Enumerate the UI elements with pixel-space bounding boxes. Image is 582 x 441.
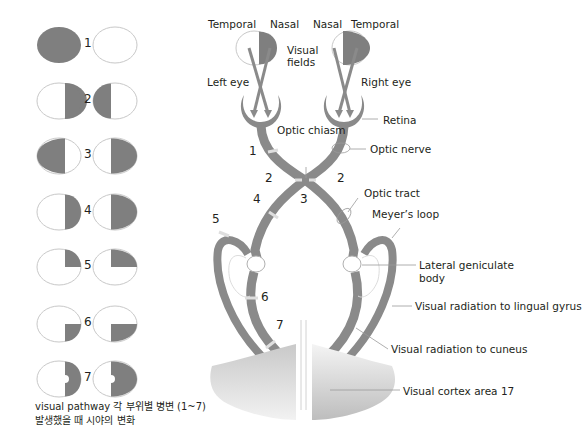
caption-line-2: 발생했을 때 시야의 변화 — [35, 414, 206, 428]
field-row-number-7: 7 — [84, 371, 92, 384]
lesion-number-4: 4 — [253, 193, 261, 206]
field-row-number-4: 4 — [84, 204, 92, 217]
label-visual-fields-1: Visual — [287, 44, 318, 56]
lesion-number-2-left: 2 — [265, 172, 273, 185]
lesion-number-5: 5 — [212, 213, 220, 226]
caption-line-1: visual pathway 각 부위별 병변 (1~7) — [35, 400, 206, 414]
lesion-number-2-right: 2 — [337, 172, 345, 185]
lesion-number-7: 7 — [276, 319, 284, 332]
label-meyers-loop: Meyer’s loop — [372, 208, 439, 220]
label-radiation-lingual: Visual radiation to lingual gyrus — [415, 300, 582, 312]
label-left-eye: Left eye — [207, 76, 249, 88]
label-radiation-cuneus: Visual radiation to cuneus — [391, 343, 527, 355]
field-row-number-3: 3 — [84, 148, 92, 161]
right-eye-field-normal — [93, 27, 137, 63]
field-row-number-1: 1 — [84, 37, 92, 50]
left-visual-cortex — [210, 344, 296, 420]
lesion-number-3: 3 — [300, 193, 308, 206]
midline — [301, 320, 306, 410]
label-left-nasal: Nasal — [270, 18, 299, 30]
label-right-eye: Right eye — [361, 76, 411, 88]
label-lgb-1: Lateral geniculate — [419, 259, 514, 271]
field-row-number-2: 2 — [84, 93, 92, 106]
label-left-temporal: Temporal — [208, 18, 256, 30]
figure-caption: visual pathway 각 부위별 병변 (1~7) 발생했을 때 시야의… — [35, 400, 206, 428]
left-lgb — [247, 256, 265, 272]
label-visual-cortex: Visual cortex area 17 — [403, 385, 514, 397]
label-retina: Retina — [383, 114, 416, 126]
label-optic-chiasm: Optic chiasm — [277, 124, 346, 136]
label-right-temporal: Temporal — [351, 18, 399, 30]
upper-radiations — [251, 272, 358, 358]
label-right-nasal: Nasal — [313, 18, 342, 30]
lesion-number-6: 6 — [261, 291, 269, 304]
label-optic-tract: Optic tract — [364, 187, 420, 199]
lesion-number-1: 1 — [249, 145, 257, 158]
label-lgb-2: body — [419, 272, 445, 284]
label-optic-nerve: Optic nerve — [370, 143, 431, 155]
field-row-number-5: 5 — [84, 259, 92, 272]
meyers-loops — [217, 240, 392, 370]
field-row-number-6: 6 — [84, 316, 92, 329]
left-visual-field — [236, 31, 277, 65]
right-lgb — [343, 256, 361, 272]
left-eye-retina — [241, 95, 281, 128]
arrowheads — [250, 110, 354, 118]
left-eye-field-full-deficit — [37, 27, 81, 63]
label-visual-fields-2: fields — [287, 56, 315, 68]
